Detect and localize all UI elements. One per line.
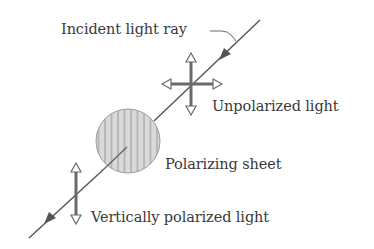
diagram-canvas: Incident light ray Unpolarized light Pol… <box>0 0 374 249</box>
incident-light-ray-label: Incident light ray <box>61 22 187 37</box>
incident-leader-line <box>210 31 236 41</box>
vertically-polarized-light-label: Vertically polarized light <box>91 210 269 225</box>
vertical-double-arrow-icon <box>71 163 81 224</box>
unpolarized-light-label: Unpolarized light <box>212 99 339 114</box>
polarizing-sheet <box>96 109 160 173</box>
transmitted-ray <box>29 169 104 238</box>
ray-arrowhead-icon-lower <box>44 212 56 224</box>
polarizing-sheet-label: Polarizing sheet <box>165 157 281 172</box>
